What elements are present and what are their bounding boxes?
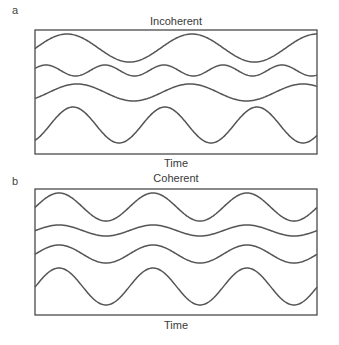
wave-2 bbox=[35, 65, 317, 76]
wave-4 bbox=[35, 268, 317, 305]
panel-a-incoherent bbox=[35, 30, 317, 154]
wave-diagram bbox=[0, 0, 339, 345]
panel-b-coherent bbox=[35, 189, 317, 315]
wave-4 bbox=[35, 107, 317, 143]
wave-3 bbox=[35, 84, 317, 101]
wave-1 bbox=[35, 34, 317, 62]
plot-frame bbox=[35, 189, 317, 315]
wave-3 bbox=[35, 245, 317, 263]
wave-1 bbox=[35, 193, 317, 221]
wave-2 bbox=[35, 225, 317, 236]
